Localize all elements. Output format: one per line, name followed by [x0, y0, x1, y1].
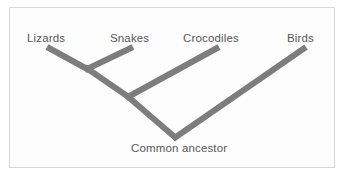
taxon-label-snakes: Snakes [110, 32, 149, 45]
branch-crocodiles [126, 47, 219, 98]
root-label-common-ancestor: Common ancestor [131, 142, 227, 155]
branch-snakes [85, 47, 133, 70]
cladogram-figure: Lizards Snakes Crocodiles Birds Common a… [0, 0, 346, 176]
taxon-label-birds: Birds [287, 32, 314, 45]
taxon-label-lizards: Lizards [27, 32, 65, 45]
branch-archosaur-stem [126, 95, 177, 139]
branch-lizards [47, 47, 89, 70]
taxon-label-crocodiles: Crocodiles [183, 32, 239, 45]
branch-squamata-stem [85, 67, 130, 98]
